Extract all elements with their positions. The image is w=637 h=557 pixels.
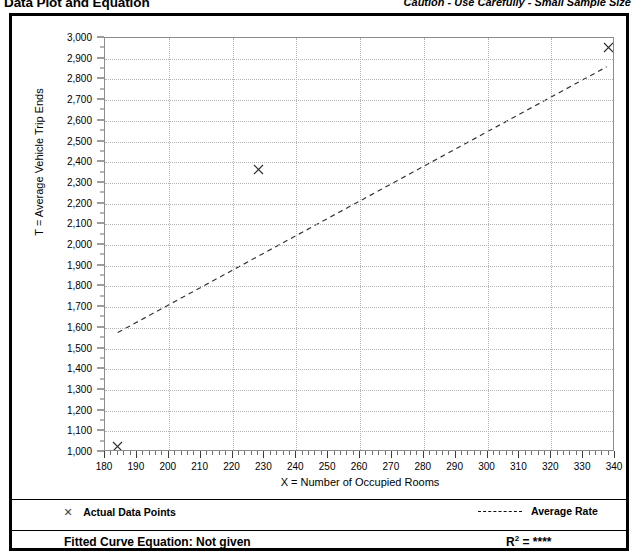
x-tick-minor	[397, 451, 398, 455]
y-tick-label: 1,900	[67, 259, 92, 270]
data-point-marker	[253, 161, 264, 172]
y-tick-label: 2,200	[67, 197, 92, 208]
x-tick-minor	[416, 451, 417, 455]
y-tick-major	[97, 388, 104, 389]
legend-label-data-points: Actual Data Points	[83, 506, 176, 518]
x-tick-major	[487, 451, 488, 458]
y-tick-label: 2,600	[67, 114, 92, 125]
gridline-horizontal	[105, 390, 613, 391]
x-tick-minor	[314, 451, 315, 455]
x-tick-major	[582, 451, 583, 458]
chart-frame: T = Average Vehicle Trip Ends 1,0001,100…	[9, 13, 629, 551]
legend-item-average-rate: Average Rate	[478, 505, 598, 517]
x-tick-minor	[576, 451, 577, 455]
y-tick-major	[97, 264, 104, 265]
y-tick-label: 1,000	[67, 446, 92, 457]
x-tick-minor	[225, 451, 226, 455]
x-tick-minor	[123, 451, 124, 455]
x-tick-minor	[334, 451, 335, 455]
x-tick-minor	[161, 451, 162, 455]
y-tick-major	[97, 451, 104, 452]
y-tick-major	[97, 306, 104, 307]
y-tick-major	[97, 181, 104, 182]
x-tick-minor	[353, 451, 354, 455]
x-tick-label: 270	[383, 461, 400, 472]
x-axis-title: X = Number of Occupied Rooms	[104, 476, 616, 488]
x-tick-minor	[181, 451, 182, 455]
y-tick-label: 2,900	[67, 52, 92, 63]
x-tick-minor	[302, 451, 303, 455]
x-tick-minor	[174, 451, 175, 455]
y-tick-label: 3,000	[67, 32, 92, 43]
x-tick-major	[295, 451, 296, 458]
x-tick-minor	[563, 451, 564, 455]
y-axis: T = Average Vehicle Trip Ends 1,0001,100…	[12, 16, 104, 452]
x-tick-label: 280	[414, 461, 431, 472]
y-tick-label: 1,200	[67, 404, 92, 415]
y-tick-label: 1,300	[67, 383, 92, 394]
x-tick-minor	[448, 451, 449, 455]
average-rate-line	[105, 38, 613, 450]
y-tick-major	[97, 119, 104, 120]
x-tick-minor	[283, 451, 284, 455]
x-tick-label: 290	[446, 461, 463, 472]
dashed-line-icon	[478, 511, 522, 512]
x-tick-minor	[130, 451, 131, 455]
x-tick-minor	[276, 451, 277, 455]
x-tick-minor	[212, 451, 213, 455]
gridline-vertical	[551, 38, 552, 450]
x-tick-minor	[155, 451, 156, 455]
x-tick-minor	[385, 451, 386, 455]
footer: Fitted Curve Equation: Not given R2 = **…	[12, 530, 626, 554]
x-tick-major	[550, 451, 551, 458]
y-tick-label: 1,500	[67, 342, 92, 353]
x-tick-label: 180	[96, 461, 113, 472]
caution-note: Caution - Use Carefully - Small Sample S…	[404, 0, 631, 8]
gridline-horizontal	[105, 100, 613, 101]
y-tick-major	[97, 202, 104, 203]
x-tick-label: 240	[287, 461, 304, 472]
y-tick-label: 1,600	[67, 321, 92, 332]
x-tick-label: 310	[510, 461, 527, 472]
y-tick-major	[97, 409, 104, 410]
data-point-marker	[603, 39, 614, 50]
x-tick-major	[423, 451, 424, 458]
x-tick-major	[168, 451, 169, 458]
x-tick-minor	[467, 451, 468, 455]
gridline-vertical	[169, 38, 170, 450]
gridline-horizontal	[105, 328, 613, 329]
gridline-horizontal	[105, 121, 613, 122]
x-tick-minor	[410, 451, 411, 455]
gridline-horizontal	[105, 204, 613, 205]
x-tick-minor	[142, 451, 143, 455]
x-tick-minor	[589, 451, 590, 455]
x-tick-major	[200, 451, 201, 458]
gridline-horizontal	[105, 79, 613, 80]
x-tick-minor	[378, 451, 379, 455]
x-tick-minor	[538, 451, 539, 455]
y-tick-major	[97, 57, 104, 58]
y-tick-label: 2,800	[67, 73, 92, 84]
x-tick-major	[518, 451, 519, 458]
x-tick-minor	[525, 451, 526, 455]
x-tick-minor	[404, 451, 405, 455]
y-tick-major	[97, 37, 104, 38]
gridline-vertical	[424, 38, 425, 450]
x-tick-minor	[365, 451, 366, 455]
x-tick-minor	[601, 451, 602, 455]
gridline-horizontal	[105, 307, 613, 308]
gridline-horizontal	[105, 162, 613, 163]
x-tick-minor	[244, 451, 245, 455]
x-tick-label: 300	[478, 461, 495, 472]
y-tick-label: 2,300	[67, 176, 92, 187]
r2-prefix: R	[506, 535, 515, 549]
x-tick-minor	[531, 451, 532, 455]
y-tick-major	[97, 99, 104, 100]
x-tick-minor	[187, 451, 188, 455]
y-tick-label: 2,500	[67, 135, 92, 146]
x-tick-major	[104, 451, 105, 458]
y-tick-major	[97, 78, 104, 79]
x-tick-minor	[474, 451, 475, 455]
x-tick-minor	[557, 451, 558, 455]
x-tick-minor	[308, 451, 309, 455]
